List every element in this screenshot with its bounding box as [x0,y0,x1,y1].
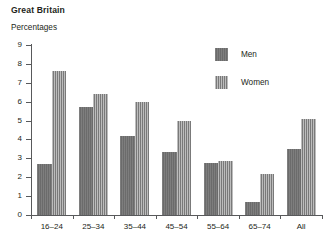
bar-women-25-34 [93,94,108,215]
x-axis-tick [322,215,323,219]
y-axis-tick [26,177,32,178]
bar-men-55-64 [204,163,219,215]
y-axis-tick-label: 7 [8,79,22,87]
y-axis-tick [26,196,32,197]
y-axis-tick [26,121,32,122]
bar-women-16-24 [52,71,67,215]
y-axis-tick-label: 5 [8,117,22,125]
bar-men-65-74 [245,202,260,215]
x-axis-tick [197,215,198,219]
x-axis-tick [114,215,115,219]
y-axis-tick-label: 1 [8,192,22,200]
x-axis-tick [239,215,240,219]
bar-women-45-54 [177,121,192,215]
x-axis-tick-label: All [276,222,326,231]
y-axis-tick-label: 4 [8,135,22,143]
bar-men-35-44 [120,136,135,215]
plot-area: 0123456789 16–2425–3435–4445–5455–6465–7… [0,0,334,236]
chart-container: Great Britain Percentages 0123456789 16–… [0,0,334,236]
x-axis-tick [156,215,157,219]
bar-men-All [287,149,302,215]
y-axis-tick [26,64,32,65]
y-axis-tick [26,158,32,159]
y-axis-tick-label: 9 [8,41,22,49]
x-axis-tick [31,215,32,219]
y-axis-line [31,44,32,216]
x-axis-tick [73,215,74,219]
y-axis-tick-label: 3 [8,154,22,162]
y-axis-tick-label: 8 [8,60,22,68]
y-axis-tick-label: 6 [8,98,22,106]
legend-swatch-women [215,76,228,89]
legend-label-men: Men [241,50,257,59]
x-axis-line [31,215,322,216]
y-axis-tick [26,45,32,46]
x-axis-tick [280,215,281,219]
bar-women-65-74 [260,174,275,215]
bar-women-55-64 [218,161,233,215]
bar-men-25-34 [79,107,94,215]
bar-men-16-24 [37,164,52,215]
y-axis-tick [26,139,32,140]
bar-women-All [301,119,316,215]
bar-women-35-44 [135,102,150,215]
y-axis-tick [26,102,32,103]
legend-swatch-men [215,48,228,61]
y-axis-tick-label: 2 [8,173,22,181]
y-axis-tick [26,83,32,84]
bar-men-45-54 [162,152,177,215]
y-axis-tick-label: 0 [8,211,22,219]
legend-label-women: Women [241,78,269,87]
